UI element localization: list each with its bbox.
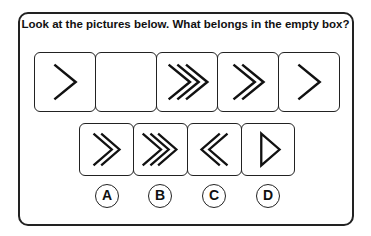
option-label-b[interactable]: B [148, 184, 172, 208]
sequence-box-3 [156, 52, 218, 112]
option-tile-b[interactable] [133, 123, 188, 176]
triangle-right-icon [242, 124, 294, 175]
double-chevron-right-icon [218, 53, 278, 111]
option-label-a[interactable]: A [95, 184, 119, 208]
option-tile-c[interactable] [187, 123, 242, 176]
sequence-box-4 [217, 52, 279, 112]
single-chevron-right-icon [35, 53, 95, 111]
sequence-box-1 [34, 52, 96, 112]
sequence-box-empty[interactable] [95, 52, 157, 112]
sequence-box-5 [278, 52, 340, 112]
option-label-c[interactable]: C [202, 184, 226, 208]
puzzle-card [18, 12, 354, 226]
option-label-d[interactable]: D [256, 184, 280, 208]
question-text: Look at the pictures below. What belongs… [0, 18, 371, 30]
option-tile-d[interactable] [241, 123, 295, 176]
triple-chevron-right-icon [134, 124, 187, 175]
double-chevron-right-icon [80, 124, 133, 175]
double-chevron-left-icon [188, 124, 241, 175]
single-chevron-right-icon [279, 53, 339, 111]
option-tile-a[interactable] [79, 123, 134, 176]
triple-chevron-right-icon [157, 53, 217, 111]
